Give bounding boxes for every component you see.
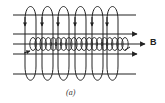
- solenoid-coil: [24, 38, 130, 54]
- field-lines-drawing: [0, 0, 165, 103]
- figure-caption: (a): [66, 88, 75, 97]
- field-loop: [58, 7, 69, 81]
- solenoid-field-diagram: B (a): [0, 0, 165, 103]
- field-b-label: B: [150, 37, 157, 47]
- field-loop: [25, 7, 36, 81]
- horizontal-field-lines: [13, 15, 145, 74]
- circular-field-loops: [25, 7, 118, 81]
